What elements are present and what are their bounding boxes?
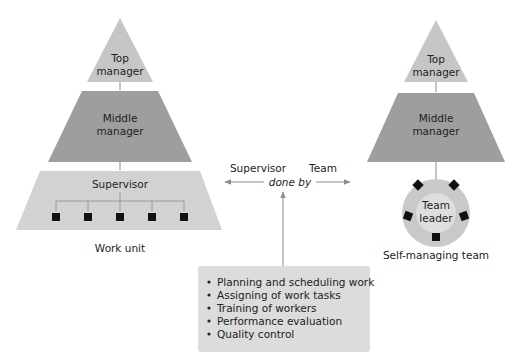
worker-node — [148, 213, 156, 221]
middle-manager-label-2: manager — [96, 125, 144, 137]
worker-node — [52, 213, 60, 221]
top-manager-label-2: manager — [96, 65, 144, 77]
done-by-label: done by — [269, 176, 312, 188]
middle-manager-label-right: Middle — [419, 112, 454, 124]
org-diagram: Top manager Middle manager Supervisor Wo… — [0, 0, 519, 360]
supervisor-label: Supervisor — [92, 178, 149, 190]
worker-node — [84, 213, 92, 221]
traditional-hierarchy: Top manager Middle manager Supervisor Wo… — [16, 18, 222, 254]
team-leader-label-2: leader — [419, 212, 453, 224]
task-item: Assigning of work tasks — [217, 289, 341, 301]
supervisor-option-label: Supervisor — [230, 162, 287, 174]
task-item: Performance evaluation — [217, 315, 342, 327]
work-unit-caption: Work unit — [95, 242, 145, 254]
top-manager-label-right-2: manager — [412, 66, 460, 78]
done-by-connector: Supervisor Team done by — [225, 162, 350, 266]
middle-manager-label-right-2: manager — [412, 125, 460, 137]
team-member-node — [432, 233, 440, 241]
middle-manager-label: Middle — [103, 112, 138, 124]
team-leader-label: Team — [421, 199, 450, 211]
task-item: Planning and scheduling work — [217, 276, 375, 288]
task-item: Quality control — [217, 328, 294, 340]
worker-node — [180, 213, 188, 221]
top-manager-label: Top — [110, 52, 129, 64]
worker-node — [116, 213, 124, 221]
team-option-label: Team — [308, 162, 337, 174]
task-item: Training of workers — [216, 302, 317, 314]
top-manager-label-right: Top — [426, 53, 445, 65]
tasks-box: Planning and scheduling work Assigning o… — [198, 266, 375, 352]
team-hierarchy: Top manager Middle manager Team leader S… — [367, 20, 505, 261]
self-managing-team-caption: Self-managing team — [383, 249, 489, 261]
